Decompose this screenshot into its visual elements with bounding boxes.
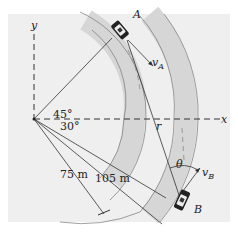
y-axis-label: y xyxy=(30,19,38,32)
car-b-label: B xyxy=(193,203,202,216)
radius-inner-label: 75 m xyxy=(60,168,88,181)
radius-outer-label: 105 m xyxy=(95,172,130,185)
tick-mark xyxy=(98,210,110,215)
kinematics-diagram: y x r vA vB θ 45° 30° 75 m 105 m A B xyxy=(0,0,238,240)
radius-75m xyxy=(34,119,104,214)
velocity-a-label: vA xyxy=(152,56,164,71)
radius-105m xyxy=(34,119,166,198)
x-axis-label: x xyxy=(221,113,228,126)
r-label: r xyxy=(156,120,162,133)
angle-30-label: 30° xyxy=(60,120,80,133)
origin xyxy=(33,118,36,121)
theta-label: θ xyxy=(176,158,183,171)
car-a-label: A xyxy=(132,8,141,21)
radius-to-a xyxy=(34,38,112,119)
velocity-b-label: vB xyxy=(202,166,214,181)
